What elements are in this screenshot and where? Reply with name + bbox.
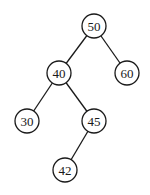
tree-node-42: 42 [53, 158, 77, 182]
tree-node-45: 45 [82, 109, 106, 133]
node-label: 60 [121, 66, 134, 81]
tree-node-40: 40 [47, 61, 71, 85]
node-label: 30 [21, 114, 34, 129]
edges [27, 26, 127, 170]
binary-tree-diagram: 50 40 60 30 45 42 [0, 0, 150, 195]
node-label: 45 [88, 114, 101, 129]
node-label: 42 [59, 163, 72, 178]
tree-node-50: 50 [82, 14, 106, 38]
node-label: 40 [53, 66, 66, 81]
node-label: 50 [88, 19, 101, 34]
tree-node-60: 60 [115, 61, 139, 85]
tree-node-30: 30 [15, 109, 39, 133]
